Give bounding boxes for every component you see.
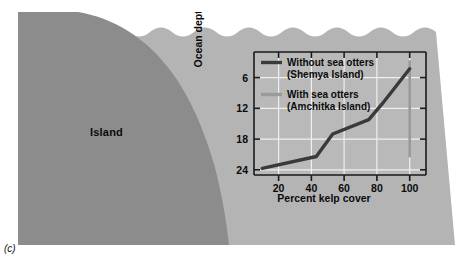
x-axis-title: Percent kelp cover (234, 192, 414, 204)
figure-caption: (c) (4, 243, 16, 254)
y-tick-label: 18 (236, 133, 248, 145)
inset-chart: 6 12 18 24 20 40 60 80 100 Without sea o… (198, 34, 443, 214)
island-label: Island (90, 126, 123, 138)
y-tick-label: 24 (236, 164, 248, 176)
legend-sublabel-shemya-island: (Shemya Island) (287, 69, 364, 80)
figure-panel: Island (18, 12, 455, 245)
legend-sublabel-amchitka-island: (Amchitka Island) (287, 101, 370, 112)
legend-label-with-sea-otters: With sea otters (287, 89, 359, 100)
y-tick-label: 12 (236, 102, 248, 114)
chart-svg: 6 12 18 24 20 40 60 80 100 Without sea o… (198, 34, 443, 214)
legend-label-without-sea-otters: Without sea otters (287, 57, 375, 68)
y-axis-title: Ocean depth (m) (192, 12, 204, 72)
y-tick-labels: 6 12 18 24 (236, 72, 248, 176)
y-tick-label: 6 (242, 72, 248, 84)
